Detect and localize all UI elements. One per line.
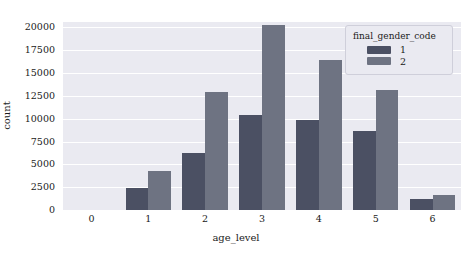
bar <box>319 60 342 210</box>
y-axis-label: count <box>1 66 12 166</box>
legend-entries: 12 <box>353 45 445 66</box>
legend-title: final_gender_code <box>353 31 445 41</box>
y-tick-label: 0 <box>0 205 55 215</box>
x-tick-label: 6 <box>413 214 453 224</box>
bar <box>353 131 376 210</box>
chart-figure: 02500500075001000012500150001750020000 0… <box>0 0 472 269</box>
legend-swatch-icon <box>367 46 391 54</box>
bar <box>376 90 399 210</box>
legend-item[interactable]: 1 <box>367 45 445 55</box>
x-tick-label: 4 <box>299 214 339 224</box>
bar <box>182 153 205 210</box>
y-tick-label: 17500 <box>0 45 55 55</box>
bar <box>262 25 285 210</box>
x-tick-label: 1 <box>128 214 168 224</box>
bar <box>296 120 319 210</box>
bar <box>433 195 456 210</box>
x-tick-label: 5 <box>356 214 396 224</box>
y-tick-label: 20000 <box>0 22 55 32</box>
x-tick-label: 0 <box>71 214 111 224</box>
bar <box>126 188 149 210</box>
bar <box>410 199 433 210</box>
x-axis-label: age_level <box>0 232 472 243</box>
legend-item-label: 2 <box>400 57 406 67</box>
bar <box>205 92 228 210</box>
legend[interactable]: final_gender_code 12 <box>345 25 453 75</box>
x-tick-label: 3 <box>242 214 282 224</box>
bar <box>148 171 171 210</box>
bar <box>239 115 262 210</box>
y-tick-label: 2500 <box>0 182 55 192</box>
legend-item[interactable]: 2 <box>367 57 445 67</box>
legend-swatch-icon <box>367 57 391 65</box>
x-tick-label: 2 <box>185 214 225 224</box>
legend-item-label: 1 <box>400 45 406 55</box>
